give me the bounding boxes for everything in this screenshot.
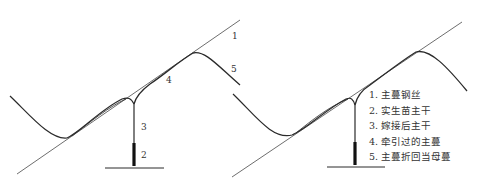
- left-vine-curve: [10, 96, 134, 138]
- legend-item: 1. 主蔓钢丝: [369, 87, 451, 103]
- label-folded-vine: 5: [231, 65, 237, 74]
- right-vine-curve: [233, 94, 355, 136]
- label-grafted-trunk: 3: [141, 123, 147, 132]
- vine-training-diagram: 1 5 4 3 2 1. 主蔓钢丝 2. 实生苗主干 3. 嫁接后主干 4. 牵…: [0, 0, 479, 188]
- legend: 1. 主蔓钢丝 2. 实生苗主干 3. 嫁接后主干 4. 牵引过的主蔓 5. 主…: [369, 87, 451, 165]
- label-main-wire: 1: [232, 32, 238, 41]
- legend-item: 5. 主蔓折回当母蔓: [369, 149, 451, 165]
- left-diagram: [10, 20, 240, 174]
- legend-item: 4. 牵引过的主蔓: [369, 134, 451, 150]
- left-vine-trained: [134, 53, 240, 104]
- label-trained-vine: 4: [166, 76, 172, 85]
- legend-item: 3. 嫁接后主干: [369, 118, 451, 134]
- left-main-wire: [17, 20, 240, 174]
- legend-item: 2. 实生苗主干: [369, 103, 451, 119]
- label-seedling-trunk: 2: [141, 151, 147, 160]
